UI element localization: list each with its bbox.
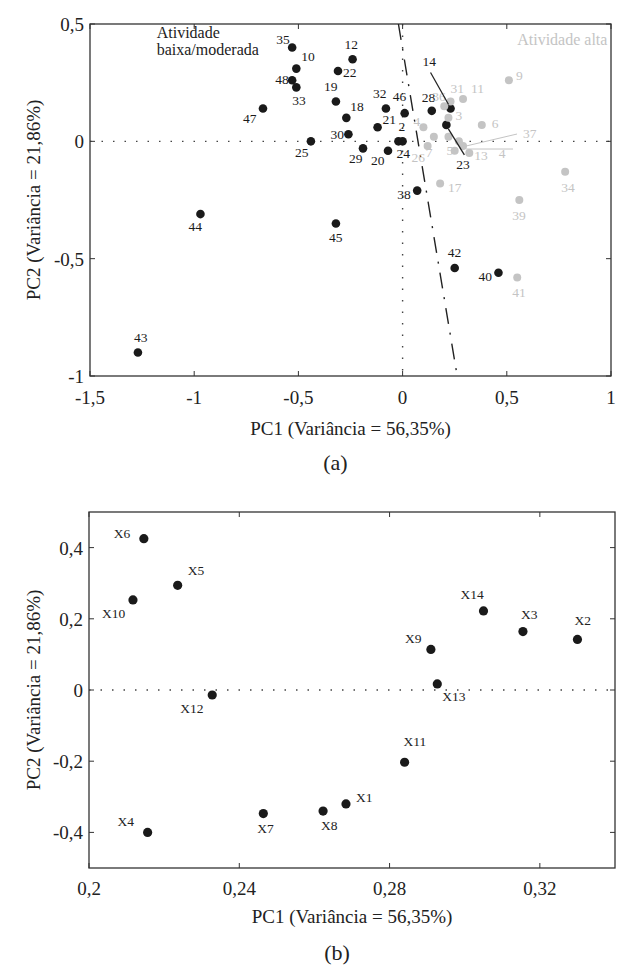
point-label: 41 xyxy=(512,285,526,300)
point-label: 17 xyxy=(448,180,462,195)
data-point xyxy=(173,581,182,590)
data-point xyxy=(518,627,527,636)
x-tick-label: 0,24 xyxy=(223,878,257,899)
region-annotation: baixa/moderada xyxy=(157,41,259,58)
data-point xyxy=(292,64,301,73)
point-label: 46 xyxy=(393,89,407,104)
point-label: 47 xyxy=(243,111,257,126)
point-label: 39 xyxy=(512,208,526,223)
point-label: 32 xyxy=(373,86,387,101)
data-point xyxy=(382,104,391,113)
point-label: 11 xyxy=(471,81,484,96)
data-point xyxy=(139,534,148,543)
data-point xyxy=(332,97,341,106)
pca-figure: -1,5-1-0,500,51-1-0,500,5PC1 (Variância … xyxy=(0,0,634,977)
point-label: 2 xyxy=(399,119,406,134)
series-0: 3510483347251222191830292024213246228142… xyxy=(134,32,503,356)
point-label: X9 xyxy=(405,631,422,646)
point-label: 45 xyxy=(329,230,343,245)
x-tick-label: 0,5 xyxy=(495,387,519,408)
x-tick-label: 0,28 xyxy=(373,878,406,899)
data-point xyxy=(444,114,452,122)
data-point xyxy=(143,828,152,837)
x-axis-title: PC1 (Variância = 56,35%) xyxy=(250,418,451,440)
data-point xyxy=(442,121,451,130)
point-label: 33 xyxy=(292,93,306,108)
point-label: 34 xyxy=(561,180,575,195)
point-label: X14 xyxy=(461,587,484,602)
pca-scores-plot-a: -1,5-1-0,500,51-1-0,500,5PC1 (Variância … xyxy=(23,14,616,475)
data-point xyxy=(561,168,569,176)
x-tick-label: 0 xyxy=(398,387,408,408)
y-tick-label: -0,2 xyxy=(53,751,83,772)
data-point xyxy=(384,146,393,155)
point-label: X10 xyxy=(102,606,125,621)
point-label: X8 xyxy=(321,818,338,833)
point-label: 30 xyxy=(330,127,344,142)
point-label: 4 xyxy=(499,146,506,161)
point-label: 37 xyxy=(523,126,537,141)
point-label: 3 xyxy=(455,108,462,123)
data-point xyxy=(341,799,350,808)
data-point xyxy=(433,679,442,688)
point-label: X4 xyxy=(118,814,135,829)
pca-loadings-plot-b: 0,20,240,280,32-0,4-0,200,20,4PC1 (Variâ… xyxy=(23,512,615,965)
data-point xyxy=(573,635,582,644)
data-point xyxy=(342,114,351,123)
point-label: 43 xyxy=(134,330,148,345)
data-point xyxy=(459,95,467,103)
point-label: 40 xyxy=(478,269,492,284)
point-label: 29 xyxy=(349,151,363,166)
point-label: 4 xyxy=(413,114,420,129)
point-label: 6 xyxy=(492,116,499,131)
point-label: 22 xyxy=(343,65,357,80)
point-label: X6 xyxy=(114,526,131,541)
point-label: 19 xyxy=(324,79,338,94)
point-label: 13 xyxy=(474,148,488,163)
data-point xyxy=(134,348,143,357)
point-label: 18 xyxy=(350,99,364,114)
point-label: X3 xyxy=(521,607,538,622)
data-point xyxy=(513,273,521,281)
region-annotation: Atividade alta xyxy=(517,31,607,48)
x-tick-label: -1 xyxy=(186,387,202,408)
data-point xyxy=(128,595,137,604)
data-point xyxy=(292,83,301,92)
region-annotation: Atividade xyxy=(157,24,220,41)
data-point xyxy=(400,109,409,118)
data-point xyxy=(398,137,407,146)
data-point xyxy=(465,149,473,157)
point-label: 14 xyxy=(423,54,437,69)
y-tick-label: 0 xyxy=(74,680,84,701)
point-label: X5 xyxy=(188,563,205,578)
data-point xyxy=(400,758,409,767)
point-label: 26 xyxy=(412,150,426,165)
panel-caption: (b) xyxy=(324,940,350,965)
point-label: X11 xyxy=(404,734,427,749)
data-point xyxy=(478,121,486,129)
x-tick-label: 1 xyxy=(606,387,616,408)
data-point xyxy=(494,268,503,277)
data-point xyxy=(332,219,341,228)
x-tick-label: 0,2 xyxy=(77,878,101,899)
y-tick-label: 0,2 xyxy=(59,609,83,630)
data-point xyxy=(344,130,353,139)
point-label: X12 xyxy=(180,701,203,716)
leader-line xyxy=(466,134,517,146)
data-point xyxy=(479,606,488,615)
data-point xyxy=(430,133,438,141)
point-label: 42 xyxy=(448,245,462,260)
x-axis-title: PC1 (Variância = 56,35%) xyxy=(252,906,453,928)
data-point xyxy=(196,210,205,219)
y-tick-label: 0 xyxy=(75,131,85,152)
data-point xyxy=(307,137,316,146)
y-axis-title: PC2 (Variância = 21,86%) xyxy=(23,590,45,791)
data-point xyxy=(259,809,268,818)
y-axis-title: PC2 (Variância = 21,86%) xyxy=(23,100,45,301)
data-point xyxy=(427,107,436,116)
point-label: 35 xyxy=(276,32,290,47)
point-label: X7 xyxy=(257,821,274,836)
data-point xyxy=(450,264,459,273)
x-tick-label: -0,5 xyxy=(283,387,313,408)
point-label: 21 xyxy=(383,112,397,127)
